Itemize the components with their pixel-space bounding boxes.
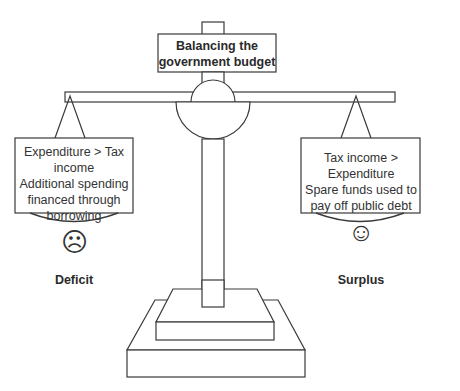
deficit-line: Expenditure > Tax xyxy=(15,144,133,160)
title-line-1: Balancing the xyxy=(176,38,258,54)
deficit-line: Additional spending xyxy=(15,176,133,192)
base-outer-front xyxy=(127,350,305,377)
deficit-label: Deficit xyxy=(15,273,133,287)
pole-base xyxy=(202,280,224,307)
deficit-line: borrowing xyxy=(15,208,133,224)
deficit-line: income xyxy=(15,160,133,176)
surplus-pan-text: Tax income > Expenditure Spare funds use… xyxy=(302,150,420,247)
sad-face-icon: ☹ xyxy=(15,227,133,257)
surplus-line: Tax income > xyxy=(302,150,420,166)
pivot-bowl xyxy=(176,102,250,139)
surplus-line: pay off public debt xyxy=(302,198,420,214)
deficit-pan-text: Expenditure > Tax income Additional spen… xyxy=(15,144,133,257)
surplus-line: Spare funds used to xyxy=(302,182,420,198)
title-text: Balancing the government budget xyxy=(158,35,276,72)
pivot-knob xyxy=(191,80,235,102)
happy-face-icon: ☺ xyxy=(302,217,420,247)
surplus-label: Surplus xyxy=(302,273,420,287)
surplus-line: Expenditure xyxy=(302,166,420,182)
base-inner-front xyxy=(156,322,274,340)
title-line-2: government budget xyxy=(159,54,276,70)
top-post xyxy=(202,22,224,35)
deficit-line: financed through xyxy=(15,192,133,208)
